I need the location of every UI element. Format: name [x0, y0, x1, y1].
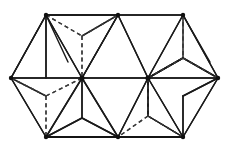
edge-topmid-to-hubleft — [82, 15, 118, 78]
vertex-left-apex — [9, 76, 13, 80]
edge-bottomright-to-hubright — [148, 78, 183, 137]
vertex-top-mid — [116, 13, 120, 17]
edge-left-to-topleft — [11, 15, 46, 78]
vertex-top-right — [181, 13, 185, 17]
vertex-bottom-right — [181, 135, 185, 139]
data-driven-edge-layer — [11, 15, 218, 137]
vertex-markers — [9, 13, 220, 139]
vertex-bottom-mid — [116, 135, 120, 139]
hidden-edges-upper-right — [148, 15, 218, 78]
edge-topleft-to-hubleft — [46, 15, 82, 78]
hidden-edges-lower-right — [118, 78, 183, 137]
vertex-hub-left — [79, 75, 84, 80]
dashed-hiddennode-lr-to-bottommid — [118, 116, 148, 137]
hidden-edges-upper-left — [46, 15, 118, 78]
hidden-edges-lower-left — [11, 78, 82, 137]
edge-bottommid-to-hubright — [118, 78, 148, 137]
figure-root — [0, 0, 230, 148]
polyhedron-wireframe — [0, 0, 230, 148]
right-lower-struts — [148, 78, 218, 137]
vertex-right-apex — [216, 76, 220, 80]
vertex-hub-right — [145, 75, 150, 80]
edge-lowernode-right-to-bottomright — [148, 116, 183, 137]
vertex-top-left — [44, 13, 48, 17]
outer-hexagon-boundary — [11, 15, 218, 137]
left-lower-struts — [46, 78, 118, 137]
vertex-bottom-left — [44, 135, 48, 139]
right-upper-struts — [148, 58, 218, 78]
edge-topmid-to-hubright — [118, 15, 148, 78]
